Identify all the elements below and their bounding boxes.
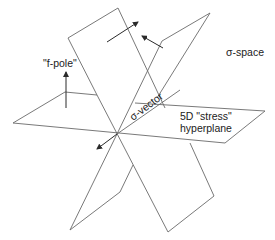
sigma-vector-arrow	[97, 134, 117, 149]
sigma-space-label: σ-space	[226, 46, 264, 58]
plane-a-upper-edge	[68, 8, 165, 108]
sigma-vector-label: σ-vector	[127, 89, 165, 122]
plane-a-normal-arrow	[107, 22, 138, 42]
plane-b-diagonal-edge	[70, 134, 117, 230]
plane-b-lower-edge	[70, 165, 133, 230]
plane-b-normal-arrow	[142, 36, 163, 48]
hyperplane-diagram: "f-pole" σ-space σ-vector 5D "stress" hy…	[0, 0, 275, 240]
hyperplane-label-line1: 5D "stress"	[180, 110, 232, 122]
f-pole-label: "f-pole"	[43, 57, 77, 69]
hyperplane-label-line2: hyperplane	[180, 122, 232, 134]
plane-a-lower-edge	[168, 143, 214, 232]
